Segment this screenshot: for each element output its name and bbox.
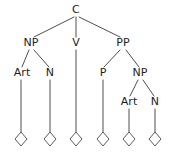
node-label-n-2: N xyxy=(151,95,159,108)
leaf-diamond-5 xyxy=(123,132,135,146)
node-label-np-object: NP xyxy=(132,66,147,79)
leaf-diamond-2 xyxy=(44,132,56,146)
node-label-p: P xyxy=(100,66,107,79)
edge-np2-n2 xyxy=(143,80,154,96)
node-label-art-1: Art xyxy=(14,66,31,79)
edge-c-pp xyxy=(79,17,120,37)
node-labels-group: C NP V PP Art N P NP Art N xyxy=(14,3,160,108)
syntax-tree-canvas: C NP V PP Art N P NP Art N xyxy=(0,0,169,152)
node-label-v: V xyxy=(72,36,80,49)
leaf-diamonds-group xyxy=(15,132,161,146)
leaf-diamond-6 xyxy=(149,132,161,146)
edge-np-art xyxy=(22,50,29,67)
edge-np2-art2 xyxy=(130,80,138,96)
leaf-diamond-1 xyxy=(15,132,27,146)
edge-np-n xyxy=(34,50,49,67)
node-label-n-1: N xyxy=(46,66,54,79)
edge-c-np xyxy=(34,17,74,37)
node-label-pp: PP xyxy=(116,36,130,49)
edge-pp-p xyxy=(104,50,120,67)
edge-pp-np2 xyxy=(126,50,139,67)
leaf-diamond-3 xyxy=(70,132,82,146)
syntax-tree-figure: C NP V PP Art N P NP Art N xyxy=(0,0,169,152)
node-label-np-subject: NP xyxy=(23,36,38,49)
node-label-art-2: Art xyxy=(121,95,138,108)
leaf-diamond-4 xyxy=(97,132,109,146)
node-label-root-c: C xyxy=(72,3,80,16)
